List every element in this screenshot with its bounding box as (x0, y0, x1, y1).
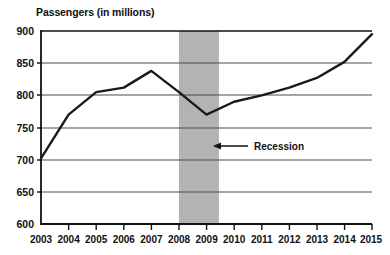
y-tick-label-850: 850 (16, 57, 34, 69)
x-tick-label-2014: 2014 (333, 234, 356, 245)
x-tick-label-2010: 2010 (223, 234, 246, 245)
x-tick-label-2003: 2003 (30, 234, 53, 245)
y-tick-label-700: 700 (16, 154, 34, 166)
y-tick-label-600: 600 (16, 218, 34, 230)
y-tick-label-800: 800 (16, 89, 34, 101)
x-tick-label-2006: 2006 (113, 234, 136, 245)
passengers-line-chart: Passengers (in millions) 900 850 800 7 (0, 0, 390, 255)
x-tick-label-2012: 2012 (278, 234, 301, 245)
y-tick-label-650: 650 (16, 186, 34, 198)
x-tick-label-2007: 2007 (140, 234, 163, 245)
x-tick-label-2005: 2005 (85, 234, 108, 245)
x-tick-label-2015: 2015 (360, 234, 383, 245)
y-tick-label-750: 750 (16, 122, 34, 134)
x-tick-label-2004: 2004 (57, 234, 80, 245)
recession-annotation-label: Recession (254, 141, 304, 152)
x-tick-label-2008: 2008 (168, 234, 191, 245)
chart-plot-area: 900 850 800 750 700 650 600 2003 2004 20… (0, 0, 390, 255)
y-tick-label-900: 900 (16, 25, 34, 37)
x-tick-label-2009: 2009 (195, 234, 218, 245)
recession-annotation: Recession (213, 141, 304, 152)
x-tick-label-2013: 2013 (306, 234, 329, 245)
x-tick-label-2011: 2011 (251, 234, 273, 245)
